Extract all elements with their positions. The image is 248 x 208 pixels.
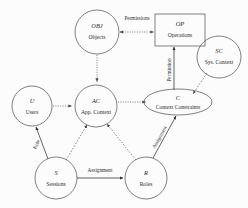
edge-roles-appcontext-line <box>107 124 136 160</box>
node-operations-shape[interactable] <box>155 14 205 46</box>
edge-label-role: Role <box>31 138 41 150</box>
node-objects-shape[interactable] <box>75 10 119 54</box>
node-objects-abbr: OBJ <box>91 22 104 29</box>
node-context-constraints-label: Context Constraints <box>156 104 201 110</box>
node-roles[interactable]: R Roles <box>125 157 167 199</box>
edge-sessions-appcontext <box>66 125 87 160</box>
node-app-context-shape[interactable] <box>75 85 117 127</box>
edge-sessions-roles: Assignment <box>77 167 123 178</box>
node-objects-label: Objects <box>88 34 105 40</box>
node-operations-abbr: OP <box>176 20 185 27</box>
edge-objects-operations: Permissions <box>120 15 154 32</box>
node-users-abbr: U <box>30 97 35 104</box>
node-roles-shape[interactable] <box>125 157 167 199</box>
edge-roles-constraints: Assignment <box>151 116 176 158</box>
node-operations-label: Operations <box>168 32 193 38</box>
node-sessions[interactable]: S Sessions <box>35 157 77 199</box>
node-app-context-label: App. Context <box>81 109 112 115</box>
node-system-context-abbr: SC <box>215 47 223 54</box>
node-roles-label: Roles <box>140 181 153 187</box>
diagram-svg: Permissions Permission Role <box>0 0 248 208</box>
node-roles-abbr: R <box>143 169 148 176</box>
node-context-constraints-shape[interactable] <box>144 89 212 115</box>
edge-label-permission: Permission <box>166 58 172 81</box>
node-sessions-shape[interactable] <box>35 157 77 199</box>
node-system-context-label: Sys. Context <box>205 59 234 65</box>
node-app-context[interactable]: AC App. Context <box>75 85 117 127</box>
node-operations[interactable]: OP Operations <box>155 14 205 46</box>
node-users-label: Users <box>26 109 39 115</box>
node-context-constraints[interactable]: C Context Constraints <box>144 89 212 115</box>
node-sessions-label: Sessions <box>46 181 65 187</box>
diagram-canvas: Permissions Permission Role <box>0 0 248 208</box>
node-objects[interactable]: OBJ Objects <box>75 10 119 54</box>
node-context-constraints-abbr: C <box>176 94 181 101</box>
node-users-shape[interactable] <box>12 86 52 126</box>
edge-roles-appcontext <box>107 124 136 160</box>
edge-sessions-users: Role <box>31 127 48 159</box>
node-system-context[interactable]: SC Sys. Context <box>197 36 241 78</box>
edge-operations-constraints: Permission <box>166 47 174 90</box>
node-app-context-abbr: AC <box>91 97 101 104</box>
node-users[interactable]: U Users <box>12 86 52 126</box>
edge-label-permissions: Permissions <box>124 15 149 21</box>
edge-label-assignment: Assignment <box>88 167 113 173</box>
edge-sessions-appcontext-line <box>66 125 87 160</box>
node-system-context-shape[interactable] <box>197 36 241 78</box>
